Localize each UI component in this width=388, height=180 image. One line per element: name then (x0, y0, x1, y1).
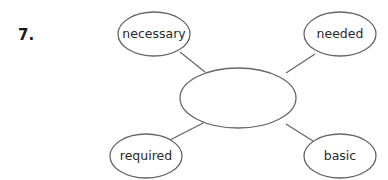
node-necessary: necessary (118, 12, 190, 56)
node-label: required (120, 148, 172, 163)
node-label: necessary (122, 26, 186, 41)
node-required: required (110, 134, 182, 178)
connector-bottom-right (286, 124, 313, 141)
connector-bottom-left (170, 121, 207, 140)
node-label: basic (324, 148, 357, 163)
node-label: needed (317, 26, 364, 41)
node-needed: needed (304, 12, 376, 56)
connector-top-right (286, 54, 315, 73)
connector-top-left (180, 52, 205, 72)
center-answer-input[interactable] (188, 74, 292, 120)
node-basic: basic (304, 134, 376, 178)
